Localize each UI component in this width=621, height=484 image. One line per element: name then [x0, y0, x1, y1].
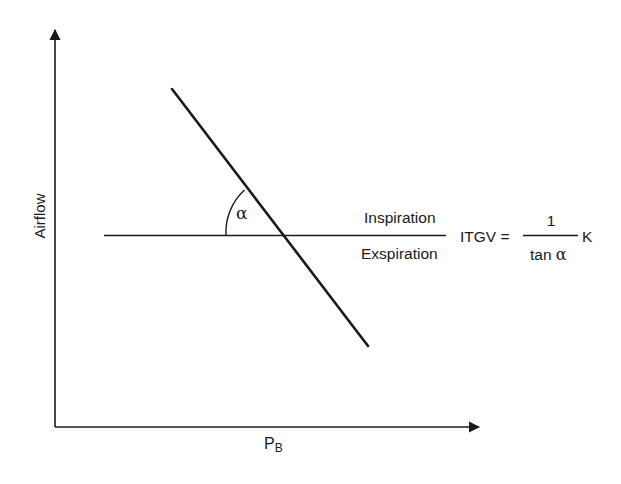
formula-lhs: ITGV =: [460, 228, 510, 245]
x-axis-label-main: P: [264, 435, 275, 452]
y-axis-label: Airflow: [31, 193, 48, 238]
itgv-formula: ITGV = 1 tan α K: [460, 212, 593, 264]
formula-denominator-text: tan: [530, 246, 556, 263]
formula-denominator: tan α: [530, 245, 567, 264]
x-axis-label-subscript: B: [275, 441, 283, 455]
x-axis-label: PB: [264, 435, 283, 455]
formula-factor: K: [582, 228, 593, 245]
inspiration-label: Inspiration: [364, 209, 436, 226]
exspiration-label: Exspiration: [361, 245, 438, 262]
itgv-diagram: Airflow PB α Inspiration Exspiration ITG…: [0, 0, 621, 484]
formula-numerator: 1: [547, 212, 556, 229]
formula-denominator-alpha: α: [556, 245, 567, 264]
angle-alpha-label: α: [236, 203, 248, 223]
pressure-flow-line: [172, 89, 368, 346]
